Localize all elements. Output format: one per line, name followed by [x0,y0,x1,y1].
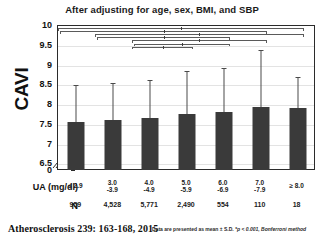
y-axis-tick: 9 [47,60,52,69]
footnote-text: Data are presented as mean ± S.D. *p < 0… [152,226,306,232]
n-value: 959 [70,201,82,208]
significance-marker [163,46,164,49]
significance-marker [164,30,165,33]
error-bar [186,71,187,114]
bar-slot [58,26,95,169]
error-bar-cap [111,83,116,84]
y-axis-tick: 8 [47,100,52,109]
category-label-table: UA (mg/dl) N ≤ 2.93.0-3.94.0-4.95.0-5.96… [0,176,324,218]
bar [215,112,232,170]
category-label: 6.0-6.9 [217,179,228,193]
category-label: 4.0-4.9 [144,179,155,193]
error-bar-cap [221,68,226,69]
bar-slot [95,26,132,169]
error-bar-cap [184,71,189,72]
plot-area [57,25,315,170]
n-value: 18 [293,201,301,208]
bar [142,118,159,170]
significance-marker [199,39,200,42]
significance-marker [181,27,182,30]
y-axis-tick: 7.5 [39,119,52,128]
bar-slot [242,26,279,169]
error-bar [113,83,114,119]
y-axis-tick: 10 [42,21,52,30]
category-label: 7.0-7.9 [254,179,265,193]
error-bar [297,77,298,108]
category-label: ≥ 8.0 [289,182,303,189]
n-value: 4,528 [104,201,122,208]
error-bar [76,85,77,122]
bar-slot [279,26,316,169]
error-bar-cap [258,50,263,51]
n-value: 5,771 [140,201,158,208]
significance-marker [164,36,165,39]
n-value: 2,490 [177,201,195,208]
significance-marker [182,43,183,46]
error-bar-cap [148,80,153,81]
chart-figure: After adjusting for age, sex, BMI, and S… [0,0,324,241]
bar [68,122,85,170]
error-bar-cap [74,85,79,86]
significance-marker [199,33,200,36]
n-value: 110 [254,201,265,208]
chart-title: After adjusting for age, sex, BMI, and S… [0,4,324,15]
n-row-label: N [6,201,78,211]
bar [105,120,122,170]
footnote-italic: *p < 0.001, Bonferroni method [235,226,306,232]
footnote-plain: Data are presented as mean ± S.D. [152,226,235,232]
y-axis-tick-labels: 109.598.587.576.50 [18,20,56,175]
error-bar [260,50,261,107]
error-bar [223,68,224,112]
bar [252,107,269,170]
bar-slot [205,26,242,169]
y-axis-tick: 9.5 [39,40,52,49]
n-value: 554 [217,201,229,208]
citation-text: Atherosclerosis 239: 163-168, 2015 [8,223,158,234]
bar [289,108,306,170]
y-axis-tick: 7 [47,139,52,148]
error-bar [150,80,151,118]
y-axis-tick: 8.5 [39,80,52,89]
category-label: 3.0-3.9 [107,179,118,193]
error-bar-cap [295,77,300,78]
category-label: ≤ 2.9 [68,182,82,189]
bar [178,114,195,170]
category-label: 5.0-5.9 [180,179,191,193]
x-axis-row-label: UA (mg/dl) [6,182,78,192]
y-axis-tick-mark [71,170,75,171]
